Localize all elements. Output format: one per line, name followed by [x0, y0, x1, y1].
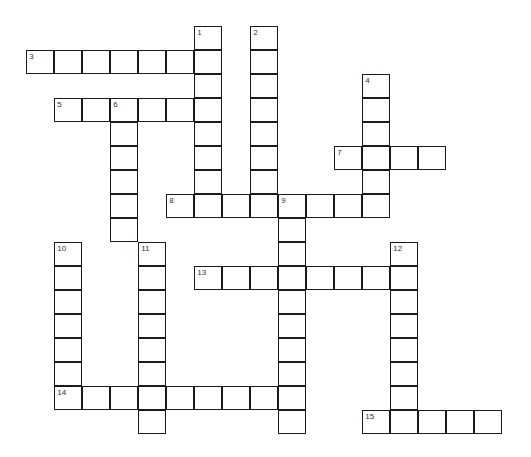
crossword-cell[interactable]: 10 — [54, 242, 82, 266]
crossword-cell[interactable] — [334, 266, 362, 290]
clue-number: 14 — [57, 388, 66, 397]
crossword-cell[interactable] — [418, 410, 446, 434]
crossword-cell[interactable]: 2 — [250, 26, 278, 50]
crossword-cell[interactable] — [110, 218, 138, 242]
crossword-cell[interactable] — [390, 362, 418, 386]
crossword-cell[interactable] — [194, 122, 222, 146]
crossword-cell[interactable] — [222, 266, 250, 290]
crossword-cell[interactable] — [138, 410, 166, 434]
clue-number: 13 — [197, 268, 206, 277]
crossword-cell[interactable]: 6 — [110, 98, 138, 122]
crossword-cell[interactable] — [138, 386, 166, 410]
crossword-cell[interactable] — [138, 338, 166, 362]
crossword-cell[interactable] — [250, 194, 278, 218]
crossword-cell[interactable] — [278, 218, 306, 242]
crossword-cell[interactable] — [278, 362, 306, 386]
crossword-cell[interactable] — [110, 146, 138, 170]
crossword-cell[interactable] — [278, 314, 306, 338]
crossword-cell[interactable] — [110, 122, 138, 146]
crossword-cell[interactable] — [446, 410, 474, 434]
crossword-cell[interactable] — [82, 386, 110, 410]
crossword-cell[interactable]: 13 — [194, 266, 222, 290]
crossword-cell[interactable] — [390, 314, 418, 338]
crossword-cell[interactable] — [418, 146, 446, 170]
crossword-cell[interactable]: 7 — [334, 146, 362, 170]
crossword-cell[interactable] — [110, 194, 138, 218]
crossword-cell[interactable] — [362, 266, 390, 290]
crossword-cell[interactable] — [362, 146, 390, 170]
crossword-cell[interactable] — [54, 338, 82, 362]
crossword-cell[interactable] — [138, 290, 166, 314]
crossword-cell[interactable] — [390, 410, 418, 434]
crossword-cell[interactable] — [54, 266, 82, 290]
crossword-cell[interactable] — [82, 98, 110, 122]
clue-number: 7 — [337, 148, 341, 157]
crossword-cell[interactable] — [390, 386, 418, 410]
crossword-cell[interactable] — [250, 50, 278, 74]
crossword-cell[interactable] — [138, 50, 166, 74]
crossword-cell[interactable] — [166, 386, 194, 410]
crossword-cell[interactable] — [166, 50, 194, 74]
crossword-cell[interactable] — [166, 98, 194, 122]
crossword-cell[interactable]: 14 — [54, 386, 82, 410]
crossword-cell[interactable] — [250, 266, 278, 290]
crossword-cell[interactable] — [250, 386, 278, 410]
crossword-cell[interactable] — [278, 338, 306, 362]
crossword-cell[interactable] — [194, 170, 222, 194]
crossword-cell[interactable] — [194, 146, 222, 170]
crossword-cell[interactable] — [250, 170, 278, 194]
crossword-cell[interactable]: 3 — [26, 50, 54, 74]
crossword-cell[interactable]: 4 — [362, 74, 390, 98]
crossword-cell[interactable]: 8 — [166, 194, 194, 218]
crossword-cell[interactable] — [194, 98, 222, 122]
crossword-cell[interactable] — [278, 290, 306, 314]
clue-number: 5 — [57, 100, 61, 109]
crossword-cell[interactable] — [362, 170, 390, 194]
crossword-cell[interactable]: 15 — [362, 410, 390, 434]
crossword-cell[interactable] — [306, 266, 334, 290]
crossword-cell[interactable] — [306, 194, 334, 218]
crossword-cell[interactable] — [278, 242, 306, 266]
crossword-cell[interactable] — [278, 386, 306, 410]
crossword-cell[interactable] — [334, 194, 362, 218]
crossword-cell[interactable] — [362, 194, 390, 218]
crossword-cell[interactable] — [54, 290, 82, 314]
crossword-cell[interactable] — [390, 146, 418, 170]
crossword-cell[interactable] — [222, 386, 250, 410]
crossword-cell[interactable] — [54, 362, 82, 386]
crossword-cell[interactable] — [110, 170, 138, 194]
crossword-cell[interactable] — [278, 410, 306, 434]
crossword-cell[interactable] — [138, 98, 166, 122]
crossword-cell[interactable] — [362, 122, 390, 146]
crossword-cell[interactable] — [82, 50, 110, 74]
clue-number: 10 — [57, 244, 66, 253]
crossword-cell[interactable] — [390, 290, 418, 314]
crossword-cell[interactable] — [222, 194, 250, 218]
crossword-cell[interactable] — [250, 98, 278, 122]
crossword-cell[interactable]: 1 — [194, 26, 222, 50]
crossword-cell[interactable] — [250, 146, 278, 170]
crossword-cell[interactable] — [194, 386, 222, 410]
clue-number: 1 — [197, 28, 201, 37]
crossword-cell[interactable] — [110, 50, 138, 74]
crossword-cell[interactable] — [138, 266, 166, 290]
crossword-cell[interactable]: 9 — [278, 194, 306, 218]
crossword-cell[interactable] — [194, 50, 222, 74]
crossword-cell[interactable] — [250, 74, 278, 98]
crossword-cell[interactable] — [390, 266, 418, 290]
crossword-cell[interactable] — [138, 314, 166, 338]
crossword-cell[interactable] — [110, 386, 138, 410]
crossword-cell[interactable] — [278, 266, 306, 290]
crossword-cell[interactable] — [138, 362, 166, 386]
crossword-cell[interactable] — [474, 410, 502, 434]
crossword-cell[interactable]: 12 — [390, 242, 418, 266]
crossword-cell[interactable]: 11 — [138, 242, 166, 266]
crossword-cell[interactable] — [54, 50, 82, 74]
crossword-cell[interactable] — [362, 98, 390, 122]
crossword-cell[interactable] — [194, 194, 222, 218]
crossword-cell[interactable] — [250, 122, 278, 146]
crossword-cell[interactable] — [54, 314, 82, 338]
crossword-cell[interactable]: 5 — [54, 98, 82, 122]
crossword-cell[interactable] — [194, 74, 222, 98]
crossword-cell[interactable] — [390, 338, 418, 362]
